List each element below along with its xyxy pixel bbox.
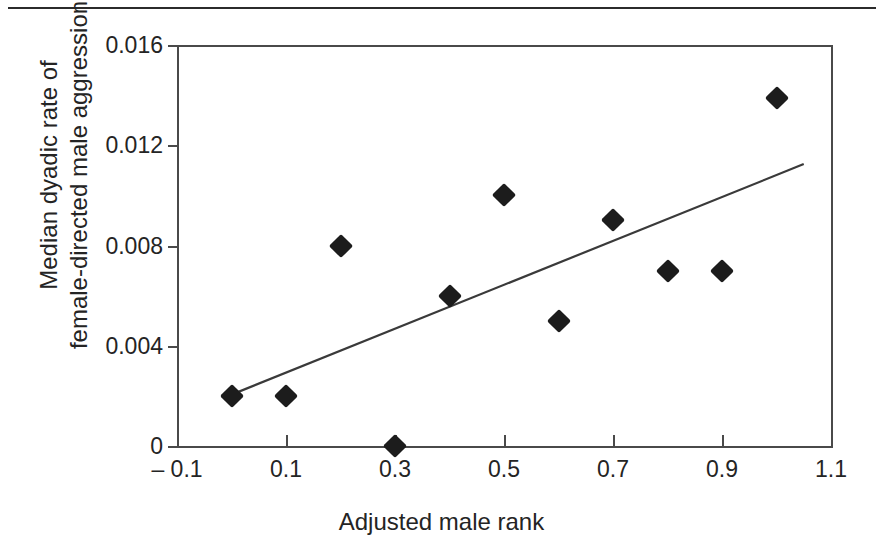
y-axis-title: Median dyadic rate of female-directed ma… [34,0,94,455]
x-axis-tick-label: 1.1 [815,456,847,483]
x-axis-tick-label: 0.7 [597,456,629,483]
regression-trendline [177,45,833,448]
x-axis-tick-label: 0.9 [706,456,738,483]
y-axis-title-line-1: Median dyadic rate of [34,0,64,455]
x-axis-tick-label: 0.5 [488,456,520,483]
x-axis-tick-label: 0.3 [379,456,411,483]
x-axis-tick-label: 0.1 [270,456,302,483]
y-axis-title-line-2: female-directed male aggression [64,0,94,455]
x-axis-title: Adjusted male rank [0,508,883,536]
x-axis-tick-label: – 0.1 [151,456,202,483]
figure-scatter-plot: 00.0040.0080.0120.016 – 0.10.10.30.50.70… [0,0,883,558]
plot-area [177,45,833,448]
top-horizontal-rule [8,7,876,9]
